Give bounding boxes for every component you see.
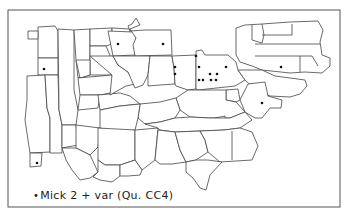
map-legend: •Mick 2 + var (Qu. CC4) — [33, 189, 173, 202]
data-point-dot — [202, 79, 205, 82]
data-point-dot — [174, 73, 177, 76]
data-point-dot — [280, 66, 283, 69]
data-point-dot — [225, 66, 228, 69]
dialect-map — [0, 0, 345, 219]
data-point-dot — [162, 43, 165, 46]
data-point-dot — [43, 68, 46, 71]
region-south-4 — [135, 128, 158, 170]
data-point-dot — [216, 73, 219, 76]
region-west-2 — [38, 58, 58, 75]
region-south-3 — [98, 128, 135, 165]
state-outlines — [25, 18, 330, 190]
data-point-dot — [209, 73, 212, 76]
data-point-dot — [210, 79, 213, 82]
region-nc-wi — [108, 31, 136, 56]
data-point-dot — [215, 79, 218, 82]
region-nc4 — [148, 56, 175, 86]
data-point-dot — [198, 66, 201, 69]
region-c4 — [78, 75, 115, 95]
legend-label: Mick 2 + var (Qu. CC4) — [40, 189, 173, 202]
data-point-dot — [261, 102, 264, 105]
legend-dot-symbol: • — [33, 190, 39, 201]
data-point-dot — [36, 162, 39, 165]
region-georgia — [200, 128, 258, 162]
region-dot-west — [172, 55, 196, 90]
data-point-dot — [117, 43, 120, 46]
region-northeast — [236, 21, 330, 73]
region-florida — [186, 160, 222, 190]
region-c5 — [78, 95, 100, 110]
data-point-dot — [174, 66, 177, 69]
region-northwest — [38, 26, 58, 58]
region-nw-tab — [28, 31, 38, 39]
data-point-dot — [195, 55, 198, 58]
data-point-dot — [198, 79, 201, 82]
region-sw-tab — [30, 153, 42, 167]
